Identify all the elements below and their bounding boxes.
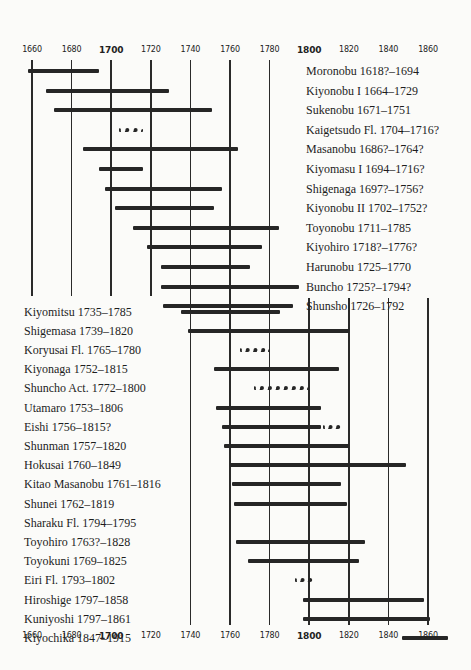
lifespan-bar <box>303 617 430 621</box>
artist-label: Moronobu 1618?–1694 <box>306 64 419 78</box>
artist-label: Shunman 1757–1820 <box>24 439 126 453</box>
artist-label: Kiyonobu II 1702–1752? <box>306 201 427 215</box>
lifespan-bar <box>163 304 294 308</box>
artist-label: Hiroshige 1797–1858 <box>24 593 128 607</box>
artist-label: Shunsho 1726–1792 <box>306 299 404 313</box>
artist-label: Kaigetsudo Fl. 1704–1716? <box>306 123 439 137</box>
tick-label-top: 1680 <box>62 45 82 54</box>
gridline-1840 <box>388 298 390 625</box>
artist-label: Eishi 1756–1815? <box>24 420 111 434</box>
tick-label-top: 1800 <box>297 45 321 55</box>
lifespan-bar <box>234 502 347 506</box>
tick-label-bottom: 1720 <box>141 631 161 640</box>
artist-label: Toyokuni 1769–1825 <box>24 554 127 568</box>
lifespan-bar <box>236 540 365 544</box>
artist-label: Kiyohiro 1718?–1776? <box>306 240 417 254</box>
lifespan-bar <box>216 406 321 410</box>
tick-label-top: 1740 <box>181 45 201 54</box>
tick-label-top: 1840 <box>379 45 399 54</box>
lifespan-bar <box>248 559 359 563</box>
gridline-1660 <box>31 60 33 296</box>
lifespan-bar <box>54 108 212 112</box>
artist-label: Hokusai 1760–1849 <box>24 458 121 472</box>
gridline-1740 <box>190 60 192 625</box>
gridline-1700 <box>110 60 112 296</box>
artist-label: Eiri Fl. 1793–1802 <box>24 573 115 587</box>
lifespan-bar <box>161 265 250 269</box>
artist-label: Harunobu 1725–1770 <box>306 260 411 274</box>
lifespan-bar <box>214 367 339 371</box>
artist-timeline-chart: 1660168017001720174017601780180018201840… <box>0 0 471 670</box>
tick-label-bottom: 1680 <box>62 631 82 640</box>
tick-label-bottom: 1820 <box>339 631 359 640</box>
artist-label: Kuniyoshi 1797–1861 <box>24 612 131 626</box>
artist-label: Koryusai Fl. 1765–1780 <box>24 343 141 357</box>
gridline-1820 <box>348 298 350 625</box>
artist-label: Sharaku Fl. 1794–1795 <box>24 516 136 530</box>
tick-label-top: 1660 <box>22 45 42 54</box>
tick-label-bottom: 1740 <box>181 631 201 640</box>
lifespan-bar <box>83 147 237 151</box>
tick-label-bottom: 1800 <box>297 631 321 641</box>
lifespan-bar <box>240 348 270 352</box>
lifespan-bar <box>161 285 300 289</box>
tick-label-bottom: 1700 <box>99 631 123 641</box>
tick-label-bottom: 1760 <box>220 631 240 640</box>
lifespan-bar <box>232 482 341 486</box>
lifespan-bar <box>147 245 262 249</box>
artist-label: Utamaro 1753–1806 <box>24 401 123 415</box>
tick-label-top: 1820 <box>339 45 359 54</box>
artist-label: Shuncho Act. 1772–1800 <box>24 381 146 395</box>
gridline-1800 <box>308 298 310 625</box>
lifespan-bar <box>181 310 280 314</box>
artist-label: Shigemasa 1739–1820 <box>24 324 133 338</box>
gridline-1680 <box>71 60 73 296</box>
lifespan-bar <box>115 206 214 210</box>
tick-label-top: 1860 <box>418 45 438 54</box>
uncertain-extension <box>323 425 341 429</box>
artist-label: Buncho 1725?–1794? <box>306 280 411 294</box>
lifespan-bar <box>295 578 313 582</box>
artist-label: Masanobu 1686?–1764? <box>306 142 424 156</box>
artist-label: Shunei 1762–1819 <box>24 497 114 511</box>
gridline-1720 <box>150 60 152 296</box>
gridline-1860 <box>427 298 429 625</box>
lifespan-bar <box>28 69 99 73</box>
lifespan-bar <box>188 329 348 333</box>
tick-label-bottom: 1860 <box>418 631 438 640</box>
lifespan-bar <box>105 187 222 191</box>
artist-label: Toyohiro 1763?–1828 <box>24 535 130 549</box>
lifespan-bar <box>99 167 143 171</box>
artist-label: Kiyomasu I 1694–1716? <box>306 162 425 176</box>
tick-label-top: 1780 <box>260 45 280 54</box>
lifespan-bar <box>224 444 349 448</box>
lifespan-bar <box>230 463 406 467</box>
lifespan-bar <box>222 425 321 429</box>
tick-label-top: 1700 <box>99 45 123 55</box>
artist-label: Kiyomitsu 1735–1785 <box>24 305 132 319</box>
tick-label-top: 1760 <box>220 45 240 54</box>
artist-label: Kitao Masanobu 1761–1816 <box>24 477 161 491</box>
gridline-1760 <box>229 60 231 625</box>
tick-label-bottom: 1840 <box>379 631 399 640</box>
lifespan-bar <box>133 226 280 230</box>
lifespan-bar <box>119 128 143 132</box>
artist-label: Sukenobu 1671–1751 <box>306 103 411 117</box>
lifespan-bar <box>46 89 169 93</box>
artist-label: Kiyonaga 1752–1815 <box>24 362 128 376</box>
tick-label-bottom: 1660 <box>22 631 42 640</box>
artist-label: Shigenaga 1697?–1756? <box>306 182 424 196</box>
lifespan-bar <box>303 598 424 602</box>
artist-label: Kiyonobu I 1664–1729 <box>306 84 418 98</box>
tick-label-top: 1720 <box>141 45 161 54</box>
lifespan-bar <box>254 386 309 390</box>
artist-label: Toyonobu 1711–1785 <box>306 221 411 235</box>
tick-label-bottom: 1780 <box>260 631 280 640</box>
